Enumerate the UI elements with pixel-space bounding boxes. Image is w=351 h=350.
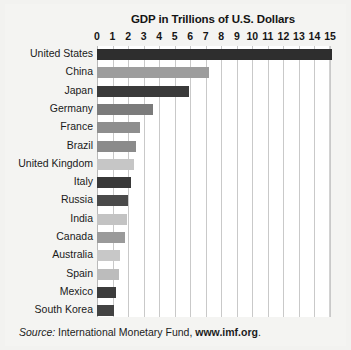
chart-title: GDP in Trillions of U.S. Dollars [91,13,335,25]
bar-row: Russia [5,192,346,210]
bar-united-kingdom [97,159,134,170]
x-tick-5: 5 [172,30,178,43]
bar-rows: United StatesChinaJapanGermanyFranceBraz… [5,46,346,317]
category-label-france: France [60,120,93,133]
bar-india [97,214,127,225]
x-tick-3: 3 [141,30,147,43]
bar-canada [97,232,125,243]
bar-row: France [5,119,346,137]
category-label-united-kingdom: United Kingdom [18,157,93,170]
bar-brazil [97,141,136,152]
bar-row: Italy [5,174,346,192]
x-axis-tick-labels: 0123456789101112131415 [97,30,330,45]
category-label-united-states: United States [30,47,93,60]
bar-row: Australia [5,247,346,265]
chart-card: GDP in Trillions of U.S. Dollars 0123456… [5,4,346,346]
bar-france [97,122,140,133]
x-tick-14: 14 [309,30,321,43]
x-tick-6: 6 [187,30,193,43]
bar-united-states [97,49,332,60]
bar-row: Brazil [5,138,346,156]
bar-china [97,67,209,78]
category-label-australia: Australia [52,248,93,261]
source-trailing: . [258,326,261,338]
bar-row: South Korea [5,302,346,320]
x-tick-2: 2 [125,30,131,43]
bar-mexico [97,287,116,298]
x-tick-11: 11 [262,30,273,43]
category-label-mexico: Mexico [60,285,93,298]
x-tick-1: 1 [110,30,116,43]
bar-spain [97,269,119,280]
chart-screenshot: GDP in Trillions of U.S. Dollars 0123456… [0,0,351,350]
x-tick-9: 9 [234,30,240,43]
category-label-south-korea: South Korea [35,303,93,316]
category-label-japan: Japan [64,84,93,97]
bar-row: Spain [5,266,346,284]
bar-russia [97,195,128,206]
bar-row: Japan [5,83,346,101]
bar-south-korea [97,305,114,316]
category-label-brazil: Brazil [67,139,93,152]
bar-row: Germany [5,101,346,119]
category-label-spain: Spain [66,267,93,280]
bar-japan [97,86,189,97]
x-tick-13: 13 [293,30,305,43]
category-label-china: China [66,65,93,78]
bar-row: Mexico [5,284,346,302]
source-name: International Monetary Fund, [55,326,195,338]
category-label-italy: Italy [74,175,93,188]
category-label-russia: Russia [61,193,93,206]
x-tick-0: 0 [94,30,100,43]
x-tick-4: 4 [156,30,162,43]
category-label-germany: Germany [50,102,93,115]
bar-italy [97,177,131,188]
source-note: Source: International Monetary Fund, www… [19,326,261,338]
category-label-india: India [70,212,93,225]
x-tick-7: 7 [203,30,209,43]
category-label-canada: Canada [56,230,93,243]
bar-australia [97,250,120,261]
bar-row: United States [5,46,346,64]
source-url: www.imf.org [195,326,258,338]
bar-row: China [5,64,346,82]
bar-row: India [5,211,346,229]
bar-row: Canada [5,229,346,247]
x-tick-8: 8 [218,30,224,43]
x-tick-10: 10 [246,30,258,43]
source-label: Source: [19,326,55,338]
bar-row: United Kingdom [5,156,346,174]
bar-germany [97,104,153,115]
x-tick-12: 12 [278,30,290,43]
x-tick-15: 15 [324,30,336,43]
